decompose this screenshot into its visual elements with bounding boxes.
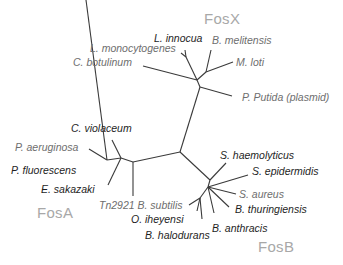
leaf-label-p-aeruginosa: P. aeruginosa: [15, 141, 78, 153]
leaf-label-l-monocytogenes: L. monocytogenes: [90, 42, 176, 54]
leaf-label-p-fluorescens: P. fluorescens: [11, 164, 76, 176]
leaf-label-c-botulinum: C. botulinum: [73, 56, 132, 68]
group-label-fosb: FosB: [258, 239, 294, 255]
group-label-fosa: FosA: [37, 205, 73, 221]
leaf-label-b-halodurans: B. halodurans: [145, 229, 210, 241]
leaf-label-s-haemolyticus: S. haemolyticus: [220, 149, 294, 161]
leaf-label-c-violaceum: C. violaceum: [71, 122, 132, 134]
leaf-label-tn2921-b-subtilis: Tn2921 B. subtilis: [99, 199, 182, 211]
leaf-label-b-melitensis: B. melitensis: [212, 34, 272, 46]
leaf-label-o-iheyensi: O. iheyensi: [131, 213, 184, 225]
group-label-fosx: FosX: [204, 11, 240, 27]
fosx-clade-branches: [143, 50, 233, 152]
leaf-label-b-anthracis: B. anthracis: [212, 222, 267, 234]
leaf-label-p-putida: P. Putida (plasmid): [242, 91, 329, 103]
leaf-label-b-thuringiensis: B. thuringiensis: [235, 203, 307, 215]
leaf-label-s-epidermidis: S. epidermidis: [252, 165, 319, 177]
leaf-label-s-aureus: S. aureus: [239, 188, 284, 200]
leaf-label-m-loti: M. loti: [236, 56, 264, 68]
fosa-clade-branches: [86, 0, 180, 196]
leaf-label-e-sakazaki: E. sakazaki: [41, 183, 95, 195]
